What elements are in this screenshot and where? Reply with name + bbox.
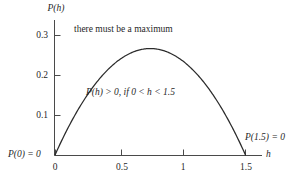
label-zero-left: P(0) = 0 bbox=[8, 150, 41, 160]
x-axis-label: h bbox=[266, 150, 271, 160]
annotation-positivity: P(h) > 0, if 0 < h < 1.5 bbox=[86, 88, 175, 98]
y-tick-label-0.1: 0.1 bbox=[18, 111, 48, 121]
x-tick-label-1.5: 1.5 bbox=[232, 163, 260, 173]
x-tick-label-0: 0 bbox=[44, 163, 66, 173]
x-tick-label-0.5: 0.5 bbox=[108, 163, 136, 173]
annotation-positivity-text: P(h) > 0, if 0 < h < 1.5 bbox=[86, 87, 175, 97]
figure-canvas: P(h) h 0.3 0.2 0.1 0 0.5 1 1.5 there mus… bbox=[0, 0, 306, 179]
y-tick-label-0.2: 0.2 bbox=[18, 71, 48, 81]
annotation-maximum: there must be a maximum bbox=[74, 25, 173, 35]
probability-curve bbox=[55, 49, 246, 155]
y-tick-label-0.3: 0.3 bbox=[18, 31, 48, 41]
x-tick-label-1: 1 bbox=[172, 163, 194, 173]
label-zero-right: P(1.5) = 0 bbox=[245, 133, 285, 143]
y-axis-label: P(h) bbox=[40, 4, 72, 14]
